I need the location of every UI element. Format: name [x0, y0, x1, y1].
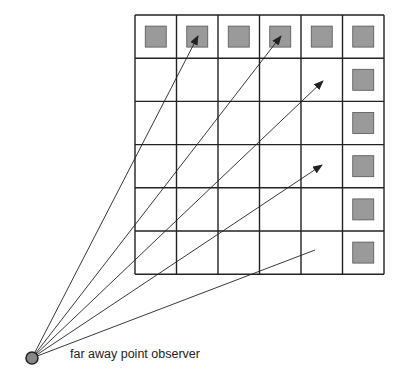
ray-line [32, 250, 315, 358]
ray-arrow [32, 36, 198, 358]
gray-square [353, 199, 374, 220]
gray-square [228, 26, 249, 47]
gray-square [311, 26, 332, 47]
perspective-diagram [0, 0, 398, 379]
gray-square [145, 26, 166, 47]
ray-arrow [32, 36, 281, 358]
observer-point-icon [26, 352, 38, 364]
gray-square [353, 26, 374, 47]
ray-arrow [32, 81, 323, 358]
observer-label: far away point observer [70, 347, 200, 361]
gray-square [353, 113, 374, 134]
gray-square [353, 242, 374, 263]
gray-square [353, 69, 374, 90]
gray-square [353, 156, 374, 177]
